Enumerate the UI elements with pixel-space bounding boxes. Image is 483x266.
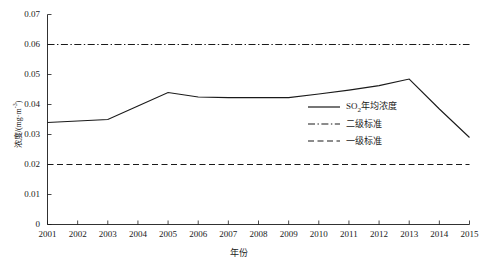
axis-ticks <box>48 15 470 225</box>
series-line-0 <box>48 79 470 138</box>
y-tick-label-4: 0.04 <box>0 99 40 109</box>
y-tick-label-3: 0.03 <box>0 129 40 139</box>
legend-label-0: SO2年均浓度 <box>346 99 397 114</box>
legend-entry-2: 一级标准 <box>307 132 397 149</box>
chart-legend: SO2年均浓度二级标准一级标准 <box>307 98 397 149</box>
y-tick-label-6: 0.06 <box>0 39 40 49</box>
chart-axes <box>48 15 470 225</box>
y-tick-label-7: 0.07 <box>0 9 40 19</box>
y-tick-label-5: 0.05 <box>0 69 40 79</box>
legend-label-1: 二级标准 <box>346 117 382 130</box>
y-tick-label-0: 0 <box>0 219 40 229</box>
y-tick-label-2: 0.02 <box>0 159 40 169</box>
data-series-layer <box>48 45 470 165</box>
y-tick-label-1: 0.01 <box>0 189 40 199</box>
legend-entry-0: SO2年均浓度 <box>307 98 397 115</box>
x-tick-label-14: 2015 <box>450 229 483 239</box>
x-axis-title: 年份 <box>0 246 477 259</box>
legend-label-2: 一级标准 <box>346 134 382 147</box>
legend-swatch-solid <box>307 102 341 112</box>
legend-entry-1: 二级标准 <box>307 115 397 132</box>
legend-swatch-dashdot <box>307 119 341 129</box>
legend-label-subscript-0: 2 <box>358 106 362 114</box>
legend-swatch-dashed <box>307 136 341 146</box>
